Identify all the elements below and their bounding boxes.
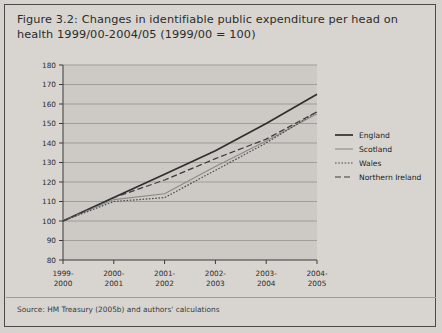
y-tick-label: 180 — [42, 61, 56, 70]
figure-title: Figure 3.2: Changes in identifiable publ… — [17, 12, 427, 42]
y-tick-label: 170 — [42, 80, 56, 89]
x-tick-label: 2002 — [155, 279, 174, 288]
x-tick-label: 2003- — [256, 269, 278, 278]
y-tick-label: 140 — [42, 139, 56, 148]
figure-frame: Figure 3.2: Changes in identifiable publ… — [4, 4, 436, 327]
y-tick-label: 100 — [42, 217, 56, 226]
x-tick-label: 1999- — [52, 269, 74, 278]
x-tick-label: 2000 — [54, 279, 73, 288]
footer-divider — [6, 297, 436, 298]
y-tick-label: 160 — [42, 100, 56, 109]
x-tick-label: 2004- — [306, 269, 328, 278]
y-tick-label: 150 — [42, 119, 56, 128]
x-tick-label: 2001- — [154, 269, 176, 278]
legend-label: Scotland — [359, 145, 392, 154]
y-tick-label: 120 — [42, 178, 56, 187]
x-tick-label: 2005 — [308, 279, 327, 288]
chart-plot-area: 80901001101201301401501601701801999-2000… — [5, 53, 437, 301]
y-tick-label: 90 — [47, 236, 57, 245]
y-tick-label: 80 — [47, 256, 57, 265]
legend-label: England — [359, 131, 390, 140]
source-note: Source: HM Treasury (2005b) and authors'… — [17, 305, 417, 314]
y-tick-label: 110 — [42, 197, 56, 206]
x-tick-label: 2001 — [105, 279, 124, 288]
line-chart: 80901001101201301401501601701801999-2000… — [5, 53, 437, 301]
y-tick-label: 130 — [42, 158, 56, 167]
x-tick-label: 2002- — [205, 269, 227, 278]
x-tick-label: 2004 — [257, 279, 276, 288]
legend-label: Wales — [359, 159, 381, 168]
x-tick-label: 2003 — [206, 279, 225, 288]
legend-label: Northern Ireland — [359, 173, 422, 182]
x-tick-label: 2000- — [103, 269, 125, 278]
